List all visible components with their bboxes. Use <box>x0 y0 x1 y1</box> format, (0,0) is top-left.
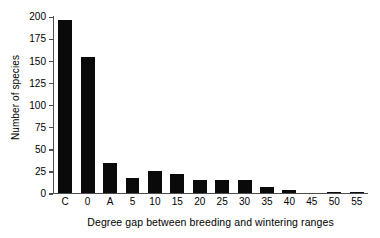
x-tick-label: 35 <box>256 196 278 208</box>
bar-slot <box>211 16 233 193</box>
bar-slot <box>166 16 188 193</box>
bar[interactable] <box>238 180 252 192</box>
y-tick-mark <box>49 39 53 40</box>
x-axis-tick-labels: C0A510152025303540455055 <box>54 196 368 208</box>
y-tick-mark <box>49 149 53 150</box>
x-tick-label: 0 <box>76 196 98 208</box>
bar[interactable] <box>148 171 162 193</box>
y-tick-label: 50 <box>35 145 49 155</box>
y-axis-title-text: Number of species <box>11 54 22 139</box>
y-tick-label: 75 <box>35 123 49 133</box>
bar[interactable] <box>58 20 72 192</box>
bar[interactable] <box>260 187 274 192</box>
x-tick-label: A <box>99 196 121 208</box>
y-tick-mark <box>49 105 53 106</box>
x-tick-label: 5 <box>121 196 143 208</box>
bar[interactable] <box>327 192 341 193</box>
bar[interactable] <box>350 192 364 193</box>
bar-series <box>54 16 368 193</box>
x-tick-label: 30 <box>233 196 255 208</box>
bar-slot <box>233 16 255 193</box>
plot-area: 0255075100125150175200 <box>53 16 368 194</box>
y-tick-mark <box>49 61 53 62</box>
x-axis-title: Degree gap between breeding and winterin… <box>53 216 368 228</box>
bar-slot <box>54 16 76 193</box>
x-axis-line <box>53 193 368 194</box>
bar[interactable] <box>215 180 229 192</box>
bar-slot <box>189 16 211 193</box>
x-tick-label: 20 <box>189 196 211 208</box>
y-tick-label: 25 <box>35 167 49 177</box>
bar-slot <box>278 16 300 193</box>
bar[interactable] <box>282 190 296 193</box>
bar-slot <box>121 16 143 193</box>
y-tick-label: 200 <box>29 12 49 22</box>
x-tick-label: 45 <box>301 196 323 208</box>
bar[interactable] <box>81 57 95 193</box>
y-tick-label: 175 <box>29 34 49 44</box>
bar[interactable] <box>103 163 117 193</box>
y-tick-mark <box>49 127 53 128</box>
y-tick-label: 125 <box>29 79 49 89</box>
y-tick-mark <box>49 83 53 84</box>
x-tick-label: 10 <box>144 196 166 208</box>
x-tick-label: 40 <box>278 196 300 208</box>
bar[interactable] <box>126 178 140 192</box>
bar-chart-figure: Number of species 0255075100125150175200… <box>0 0 380 238</box>
bar-slot <box>256 16 278 193</box>
y-tick-label: 0 <box>40 189 49 199</box>
x-tick-label: 55 <box>345 196 367 208</box>
y-tick-label: 100 <box>29 101 49 111</box>
y-tick-mark <box>49 193 53 194</box>
bar[interactable] <box>170 174 184 193</box>
bar[interactable] <box>193 180 207 192</box>
bar-slot <box>99 16 121 193</box>
bar-slot <box>345 16 367 193</box>
y-tick-mark <box>49 17 53 18</box>
bar-slot <box>323 16 345 193</box>
bar-slot <box>301 16 323 193</box>
bar-slot <box>76 16 98 193</box>
y-tick-label: 150 <box>29 57 49 67</box>
y-tick-mark <box>49 171 53 172</box>
y-axis-title: Number of species <box>8 0 24 194</box>
x-tick-label: C <box>54 196 76 208</box>
bar-slot <box>144 16 166 193</box>
x-tick-label: 25 <box>211 196 233 208</box>
x-tick-label: 50 <box>323 196 345 208</box>
x-tick-label: 15 <box>166 196 188 208</box>
